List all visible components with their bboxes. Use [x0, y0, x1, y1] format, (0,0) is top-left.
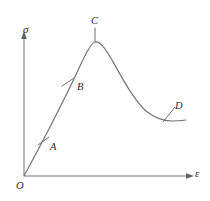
- stress-strain-figure: σ ε O A B C D: [0, 0, 210, 201]
- y-axis-label-sigma: σ: [23, 24, 28, 35]
- point-label-d: D: [175, 101, 183, 112]
- origin-label: O: [16, 181, 24, 192]
- x-axis-label-epsilon: ε: [195, 168, 199, 179]
- x-axis-arrow-icon: [186, 173, 194, 179]
- point-label-c: C: [91, 16, 98, 27]
- leader-line-d: [163, 107, 175, 122]
- point-label-b: B: [77, 82, 83, 93]
- point-label-a: A: [50, 142, 56, 153]
- stress-strain-curve-path: [24, 42, 186, 176]
- y-axis: [21, 31, 27, 176]
- x-axis: [24, 173, 194, 179]
